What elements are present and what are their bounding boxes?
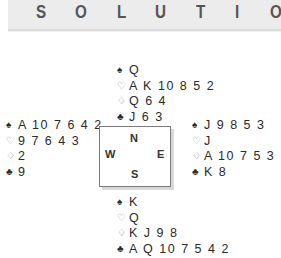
east-hearts: J [204, 134, 212, 148]
north-hand: ♠Q ♡A K 10 8 5 2 ♢Q 6 4 ♣J 6 3 [117, 62, 215, 124]
heart-icon: ♡ [6, 133, 18, 149]
west-clubs: 9 [18, 165, 26, 179]
south-diamonds: K J 9 8 [129, 226, 178, 240]
compass-box: N W E S [99, 126, 171, 187]
west-spades-row: ♠A 10 7 6 4 2 [6, 117, 103, 133]
club-icon: ♣ [117, 109, 129, 125]
west-hearts-row: ♡9 7 6 4 3 [6, 133, 103, 149]
title-letter: O [75, 1, 87, 23]
east-diamonds-row: ♢A 10 7 5 3 [192, 148, 275, 164]
spade-icon: ♠ [192, 117, 204, 133]
north-hearts-row: ♡A K 10 8 5 2 [117, 78, 215, 94]
title-letter: L [117, 1, 126, 23]
north-hearts: A K 10 8 5 2 [129, 79, 215, 93]
south-hearts-row: ♡Q [117, 210, 230, 226]
west-hearts: 9 7 6 4 3 [18, 134, 80, 148]
south-spades-row: ♠K [117, 194, 230, 210]
club-icon: ♣ [192, 164, 204, 180]
south-clubs-row: ♣A Q 10 7 5 4 2 [117, 241, 230, 257]
solution-title: S O L U T I O [0, 0, 281, 29]
compass-north-label: N [130, 132, 138, 144]
west-diamonds-row: ♢2 [6, 148, 103, 164]
compass-east-label: E [157, 148, 164, 160]
east-diamonds: A 10 7 5 3 [204, 149, 275, 163]
title-letter: U [155, 1, 166, 23]
south-hand: ♠K ♡Q ♢K J 9 8 ♣A Q 10 7 5 4 2 [117, 194, 230, 256]
compass-west-label: W [105, 148, 115, 160]
north-diamonds: Q 6 4 [129, 94, 167, 108]
spade-icon: ♠ [117, 62, 129, 78]
east-clubs-row: ♣K 8 [192, 164, 275, 180]
spade-icon: ♠ [6, 117, 18, 133]
club-icon: ♣ [6, 164, 18, 180]
west-diamonds: 2 [18, 149, 26, 163]
heart-icon: ♡ [117, 210, 129, 226]
west-spades: A 10 7 6 4 2 [18, 118, 103, 132]
east-clubs: K 8 [204, 165, 227, 179]
south-diamonds-row: ♢K J 9 8 [117, 225, 230, 241]
north-diamonds-row: ♢Q 6 4 [117, 93, 215, 109]
north-spades-row: ♠Q [117, 62, 215, 78]
west-hand: ♠A 10 7 6 4 2 ♡9 7 6 4 3 ♢2 ♣9 [6, 117, 103, 179]
title-letter: O [270, 1, 281, 23]
spade-icon: ♠ [117, 194, 129, 210]
diamond-icon: ♢ [6, 148, 18, 164]
heart-icon: ♡ [117, 78, 129, 94]
club-icon: ♣ [117, 241, 129, 257]
title-letter: T [196, 1, 205, 23]
south-spades: K [129, 195, 139, 209]
east-hearts-row: ♡J [192, 133, 275, 149]
diamond-icon: ♢ [117, 93, 129, 109]
south-clubs: A Q 10 7 5 4 2 [129, 242, 230, 256]
east-hand: ♠J 9 8 5 3 ♡J ♢A 10 7 5 3 ♣K 8 [192, 117, 275, 179]
north-clubs: J 6 3 [129, 110, 164, 124]
north-spades: Q [129, 63, 140, 77]
diamond-icon: ♢ [192, 148, 204, 164]
heart-icon: ♡ [192, 133, 204, 149]
west-clubs-row: ♣9 [6, 164, 103, 180]
diamond-icon: ♢ [117, 225, 129, 241]
compass-south-label: S [131, 168, 138, 180]
title-letter: I [235, 1, 239, 23]
east-spades: J 9 8 5 3 [204, 118, 265, 132]
east-spades-row: ♠J 9 8 5 3 [192, 117, 275, 133]
south-hearts: Q [129, 211, 140, 225]
title-letter: S [36, 1, 46, 23]
